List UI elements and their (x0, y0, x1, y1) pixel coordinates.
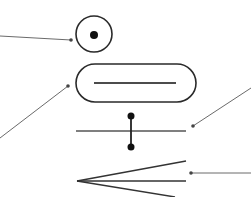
diagram-canvas (0, 0, 251, 197)
leader-endpoint-dot (69, 38, 73, 42)
link-top-dot (128, 113, 135, 120)
fork-symbol (77, 161, 186, 197)
leader-line (0, 36, 71, 40)
fork-prong-3 (77, 181, 175, 197)
leader-endpoint-dot (189, 171, 193, 175)
center-dot (90, 31, 98, 39)
line-with-link-symbol (76, 113, 186, 151)
symbols-layer (76, 16, 196, 197)
leader-endpoint-dot (191, 124, 195, 128)
leader-endpoint-dot (66, 84, 70, 88)
leader-line (0, 86, 68, 138)
rounded-slot-symbol (76, 64, 196, 102)
leader-slot (0, 84, 70, 138)
leader-circle (0, 36, 73, 42)
circle-with-point-symbol (76, 16, 112, 52)
leader-line (193, 88, 251, 126)
link-bottom-dot (128, 144, 135, 151)
leader-fork (189, 171, 251, 175)
symbol-diagram (0, 0, 251, 197)
leader-line-link (191, 88, 251, 128)
leaders-layer (0, 36, 251, 175)
fork-prong-1 (77, 161, 186, 181)
